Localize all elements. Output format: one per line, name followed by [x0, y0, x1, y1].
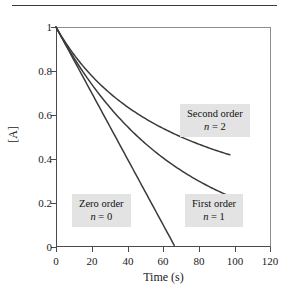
x-tick-label-100: 100 — [215, 256, 255, 267]
y-axis-title: [A] — [7, 105, 20, 165]
annotation-zero-order: Zero order n = 0 — [72, 194, 131, 227]
y-tick-label-1: 1 — [12, 22, 52, 33]
x-tick-mark-40 — [128, 247, 129, 252]
annotation-first-order-equation: n = 1 — [192, 210, 236, 223]
y-tick-label-0.2: 0.2 — [12, 198, 52, 209]
x-tick-label-40: 40 — [108, 256, 148, 267]
x-axis-title: Time (s) — [56, 271, 271, 284]
x-tick-mark-120 — [270, 247, 271, 252]
annotation-first-order-n-value: = 1 — [208, 211, 224, 222]
y-tick-label-0: 0 — [12, 242, 52, 253]
y-tick-label-0.8: 0.8 — [12, 66, 52, 77]
annotation-zero-order-equation: n = 0 — [79, 210, 124, 223]
x-tick-mark-100 — [235, 247, 236, 252]
annotation-second-order-label: Second order — [187, 107, 243, 120]
x-tick-label-0: 0 — [36, 256, 76, 267]
x-tick-mark-80 — [199, 247, 200, 252]
annotation-zero-order-label: Zero order — [79, 197, 124, 210]
x-tick-mark-60 — [163, 247, 164, 252]
kinetics-figure: 1 0.8 0.6 0.4 0.2 0 0 20 40 60 80 100 12… — [0, 0, 293, 290]
annotation-first-order: First order n = 1 — [185, 194, 243, 227]
x-tick-label-80: 80 — [179, 256, 219, 267]
annotation-second-order-equation: n = 2 — [187, 120, 243, 133]
x-tick-mark-0 — [56, 247, 57, 252]
annotation-first-order-label: First order — [192, 197, 236, 210]
x-tick-label-120: 120 — [250, 256, 290, 267]
x-tick-mark-20 — [92, 247, 93, 252]
annotation-second-order: Second order n = 2 — [180, 104, 250, 137]
annotation-zero-order-n-value: = 0 — [96, 211, 112, 222]
x-tick-label-60: 60 — [143, 256, 183, 267]
x-tick-label-20: 20 — [72, 256, 112, 267]
annotation-second-order-n-value: = 2 — [209, 121, 225, 132]
